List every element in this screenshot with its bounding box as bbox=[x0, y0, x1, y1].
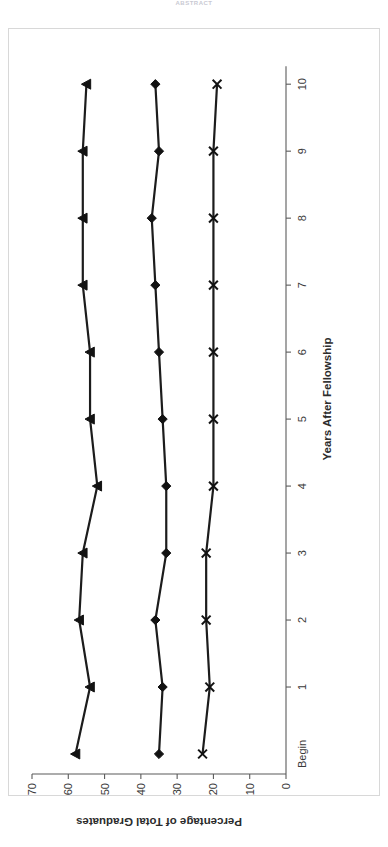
x-tick-label: 9 bbox=[296, 148, 308, 154]
line-chart: 010203040506070Begin12345678910Years Aft… bbox=[16, 32, 372, 792]
y-tick-label: 10 bbox=[244, 783, 256, 795]
figure-frame: 010203040506070Begin12345678910Years Aft… bbox=[8, 28, 380, 796]
series-2 bbox=[147, 80, 171, 759]
x-tick-label: 6 bbox=[296, 349, 308, 355]
x-tick-label: Begin bbox=[296, 740, 308, 768]
x-tick-label: 5 bbox=[296, 416, 308, 422]
chart-page: ABSTRACT 010203040506070Begin12345678910… bbox=[0, 0, 388, 847]
data-point-marker bbox=[151, 80, 160, 89]
y-tick-label: 30 bbox=[171, 783, 183, 795]
data-point-marker bbox=[154, 147, 163, 156]
y-axis-title: Percentage of Total Graduates bbox=[76, 816, 242, 828]
data-point-marker bbox=[158, 682, 167, 691]
y-tick-label: 70 bbox=[26, 783, 38, 795]
x-tick-label: 4 bbox=[296, 483, 308, 489]
series-3 bbox=[198, 80, 221, 759]
data-point-marker bbox=[151, 281, 160, 290]
x-tick-label: 3 bbox=[296, 550, 308, 556]
plot-area: 010203040506070Begin12345678910Years Aft… bbox=[16, 32, 372, 792]
x-tick-label: 1 bbox=[296, 684, 308, 690]
data-point-marker bbox=[151, 615, 160, 624]
series-polyline bbox=[203, 84, 218, 754]
rotated-chart-container: 010203040506070Begin12345678910Years Aft… bbox=[16, 32, 372, 792]
y-tick-label: 50 bbox=[99, 783, 111, 795]
y-tick-label: 0 bbox=[280, 783, 292, 789]
y-tick-label: 40 bbox=[135, 783, 147, 795]
y-tick-label: 60 bbox=[62, 783, 74, 795]
y-tick-label: 20 bbox=[207, 783, 219, 795]
page-header-stamp: ABSTRACT bbox=[0, 0, 388, 8]
data-point-marker bbox=[71, 749, 80, 759]
x-axis-title: Years After Fellowship bbox=[321, 338, 333, 461]
x-tick-label: 10 bbox=[296, 78, 308, 90]
data-point-marker bbox=[147, 214, 156, 223]
data-point-marker bbox=[154, 749, 163, 758]
data-point-marker bbox=[158, 414, 167, 423]
x-tick-label: 8 bbox=[296, 215, 308, 221]
data-point-marker bbox=[162, 548, 171, 557]
x-tick-label: 7 bbox=[296, 282, 308, 288]
x-tick-label: 2 bbox=[296, 617, 308, 623]
data-point-marker bbox=[154, 348, 163, 357]
data-point-marker bbox=[162, 481, 171, 490]
series-1 bbox=[71, 79, 102, 759]
